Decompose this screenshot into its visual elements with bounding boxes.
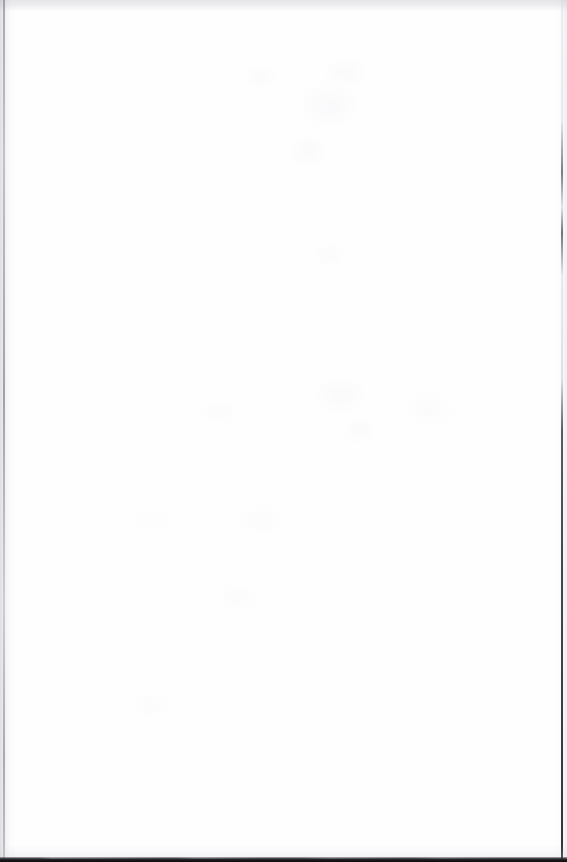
bottom-edge-halo-artifact [0,845,567,857]
right-edge-shading-artifact [553,0,567,862]
top-edge-band-artifact [0,0,567,11]
left-edge-rule-artifact [3,0,5,862]
right-edge-rule-artifact [561,0,563,862]
bottom-edge-band-artifact [0,857,567,862]
paper-surface [0,0,567,862]
scanned-page [0,0,567,862]
